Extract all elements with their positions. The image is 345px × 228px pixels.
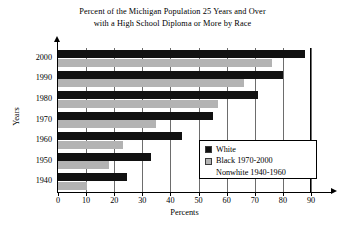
x-axis-line <box>57 192 332 193</box>
chart-legend: White Black 1970-2000 Nonwhite 1940-1960 <box>199 140 317 179</box>
legend-item-white: White <box>205 144 316 155</box>
y-axis-tick-label: 1940 <box>14 176 52 185</box>
y-axis-arrow-icon <box>54 36 60 42</box>
x-axis-tick-label: 20 <box>99 196 129 205</box>
bar <box>58 59 272 67</box>
bar <box>58 153 151 161</box>
y-axis-title: Years <box>12 87 21 147</box>
bar <box>58 50 305 58</box>
chart-title-line-2: with a High School Diploma or More by Ra… <box>0 18 345 30</box>
bar <box>58 161 109 169</box>
chart-title-line-1: Percent of the Michigan Population 25 Ye… <box>0 6 345 18</box>
bar <box>58 91 258 99</box>
x-axis-tick-label: 90 <box>296 196 326 205</box>
bar <box>58 173 127 181</box>
legend-swatch-white-icon <box>205 146 212 153</box>
x-axis-tick-label: 10 <box>71 196 101 205</box>
x-axis-title: Percents <box>58 208 311 217</box>
legend-item-black: Black 1970-2000 <box>205 156 316 167</box>
legend-label-white: White <box>216 145 236 155</box>
x-axis-tick-label: 0 <box>43 196 73 205</box>
bar <box>58 100 218 108</box>
bar <box>58 112 213 120</box>
bar <box>58 182 87 190</box>
x-axis-tick-label: 40 <box>155 196 185 205</box>
legend-swatch-nonwhite-icon <box>205 169 212 176</box>
bar <box>58 141 123 149</box>
bar <box>58 79 244 87</box>
legend-swatch-black-icon <box>205 158 212 165</box>
x-axis-tick-label: 70 <box>240 196 270 205</box>
y-axis-tick-label: 2000 <box>14 53 52 62</box>
x-axis-tick-label: 50 <box>184 196 214 205</box>
bar <box>58 71 283 79</box>
bar <box>58 132 182 140</box>
bar <box>58 120 156 128</box>
y-axis-tick-label: 1990 <box>14 73 52 82</box>
chart-title: Percent of the Michigan Population 25 Ye… <box>0 6 345 29</box>
x-axis-arrow-icon <box>331 188 337 194</box>
legend-label-nonwhite: Nonwhite 1940-1960 <box>216 168 286 178</box>
y-axis-tick-label: 1950 <box>14 156 52 165</box>
x-axis-tick-label: 30 <box>127 196 157 205</box>
chart-container: Percent of the Michigan Population 25 Ye… <box>0 0 345 228</box>
legend-label-black: Black 1970-2000 <box>216 156 273 166</box>
x-axis-tick-label: 60 <box>212 196 242 205</box>
x-axis-tick-label: 80 <box>268 196 298 205</box>
legend-item-nonwhite: Nonwhite 1940-1960 <box>205 167 316 178</box>
